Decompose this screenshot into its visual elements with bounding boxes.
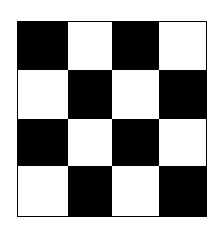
- board-cell-dark: [112, 119, 159, 166]
- board-cell-dark: [112, 22, 159, 70]
- board-cell-light: [68, 119, 112, 166]
- board-cell-dark: [68, 166, 112, 216]
- board-cell-light: [112, 70, 159, 119]
- board-cell-dark: [68, 70, 112, 119]
- checkerboard: [17, 21, 207, 217]
- board-cell-light: [159, 119, 206, 166]
- board-cell-light: [68, 22, 112, 70]
- board-cell-dark: [159, 70, 206, 119]
- board-cell-light: [18, 166, 68, 216]
- board-cell-dark: [18, 119, 68, 166]
- board-cell-light: [159, 22, 206, 70]
- board-cell-light: [18, 70, 68, 119]
- board-cell-dark: [159, 166, 206, 216]
- board-cell-dark: [18, 22, 68, 70]
- board-cell-light: [112, 166, 159, 216]
